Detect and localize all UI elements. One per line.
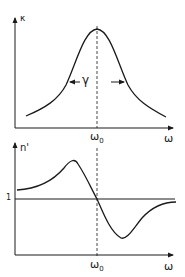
omega0-sub: 0: [99, 265, 103, 273]
absorption-panel: [15, 18, 173, 128]
omega-label-top: ω: [164, 133, 173, 144]
absorption-curve: [26, 29, 166, 117]
omega0-sub: 0: [99, 137, 103, 145]
omega-label-bottom: ω: [164, 261, 173, 272]
gamma-label: γ: [82, 74, 89, 86]
dispersion-panel: [15, 143, 176, 257]
unity-label: 1: [6, 194, 11, 202]
omega0-label-top: ω0: [90, 131, 104, 145]
n-prime-label: n': [20, 143, 29, 153]
omega0-label-bottom: ω0: [90, 259, 104, 273]
omega0-main: ω: [90, 130, 99, 143]
omega0-main: ω: [90, 258, 99, 271]
kappa-label: κ: [20, 14, 25, 23]
